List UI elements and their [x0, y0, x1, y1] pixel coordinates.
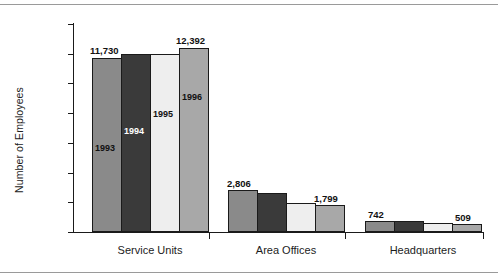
- x-axis-label-area-offices: Area Offices: [228, 244, 344, 256]
- y-tick-10000: 10,000: [0, 83, 80, 84]
- bar-service-units-1995[interactable]: [150, 54, 180, 232]
- year-label-service-units-1996: 1996: [182, 92, 202, 102]
- value-label-area-offices-1993: 2,806: [227, 178, 251, 189]
- bar-area-offices-1996[interactable]: [315, 205, 345, 232]
- bar-chart-figure: Number of Employees 14,000 12,000 10,000…: [0, 0, 498, 279]
- bar-group-area-offices: 2,806 1,799: [228, 24, 344, 232]
- bar-group-service-units: 11,730 12,392 1993 1994 1995 1996: [92, 24, 208, 232]
- y-axis-title-text: Number of Employees: [13, 87, 25, 193]
- value-label-service-units-1996: 12,392: [176, 35, 205, 46]
- x-axis-end-tick: [483, 233, 484, 239]
- value-label-service-units-1993: 11,730: [90, 45, 119, 56]
- value-label-area-offices-1996: 1,799: [314, 193, 338, 204]
- bar-service-units-1996[interactable]: [179, 48, 209, 232]
- bar-headquarters-1994[interactable]: [394, 221, 424, 232]
- y-tick-6000: 6,000: [0, 143, 80, 144]
- value-label-headquarters-1993: 742: [368, 209, 384, 220]
- group-separator-tick: [209, 233, 210, 239]
- bar-area-offices-1995[interactable]: [286, 203, 316, 232]
- x-axis-label-service-units: Service Units: [92, 244, 208, 256]
- bottom-divider: [0, 272, 498, 273]
- bar-area-offices-1994[interactable]: [257, 193, 287, 232]
- bar-headquarters-1993[interactable]: [365, 221, 395, 232]
- y-tick-0: 0: [0, 232, 80, 233]
- y-tick-12000: 12,000: [0, 54, 80, 55]
- year-label-service-units-1994: 1994: [124, 126, 144, 136]
- y-tick-2000: 2,000: [0, 202, 80, 203]
- year-label-service-units-1995: 1995: [153, 109, 173, 119]
- group-separator-tick: [345, 233, 346, 239]
- bar-service-units-1994[interactable]: [121, 54, 151, 232]
- year-label-service-units-1993: 1993: [95, 143, 115, 153]
- bars-layer: 11,730 12,392 1993 1994 1995 1996 2,806 …: [74, 24, 484, 232]
- bar-headquarters-1996[interactable]: [452, 224, 482, 232]
- bar-area-offices-1993[interactable]: [228, 190, 258, 232]
- value-label-headquarters-1996: 509: [455, 212, 471, 223]
- bar-group-headquarters: 742 509: [365, 24, 481, 232]
- x-axis-label-headquarters: Headquarters: [365, 244, 481, 256]
- y-tick-14000: 14,000: [0, 24, 80, 25]
- x-axis-line: [73, 232, 484, 233]
- y-tick-4000: 4,000: [0, 173, 80, 174]
- y-tick-8000: 8,000: [0, 113, 80, 114]
- top-divider: [0, 4, 498, 5]
- bar-headquarters-1995[interactable]: [423, 223, 453, 232]
